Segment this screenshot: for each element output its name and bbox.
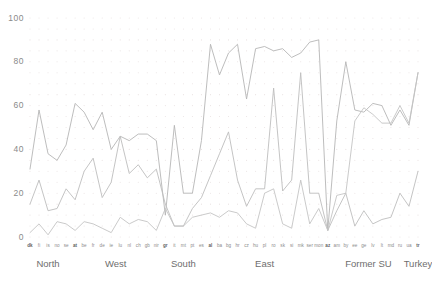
series-line-3	[30, 73, 418, 235]
series-line-1	[30, 40, 418, 231]
x-axis-tick-label: lu	[118, 243, 122, 249]
group-label-west: West	[105, 258, 126, 269]
x-axis-tick-label: be	[82, 243, 87, 249]
x-axis-tick-label: ge	[361, 243, 366, 249]
x-axis-tick-label: es	[199, 243, 204, 249]
x-axis-tick-label: bg	[226, 243, 231, 249]
y-axis-tick-label: 100	[2, 14, 24, 23]
series-line-2	[30, 73, 418, 231]
y-axis-tick-label: 60	[2, 101, 24, 110]
x-axis-tick-label: ro	[272, 243, 276, 249]
group-label-north: North	[36, 258, 59, 269]
group-label-former-su: Former SU	[345, 258, 391, 269]
x-axis-tick-label: se	[64, 243, 69, 249]
x-axis-tick-label: ch	[136, 243, 141, 249]
x-axis-tick-label: am	[334, 243, 340, 249]
x-axis-tick-label: pl	[263, 243, 267, 249]
x-axis-tick-label: mon	[314, 243, 323, 249]
y-axis-tick-label: 80	[2, 57, 24, 66]
x-axis-tick-label: sk	[280, 243, 285, 249]
x-axis-tick-label: cz	[244, 243, 249, 249]
x-axis-tick-label: ru	[398, 243, 402, 249]
x-axis-tick-label: it	[173, 243, 175, 249]
group-label-east: East	[255, 258, 274, 269]
x-axis-tick-label: nl	[127, 243, 131, 249]
x-axis-tick-label: az	[325, 243, 330, 249]
x-axis-tick-label: mk	[298, 243, 304, 249]
x-axis-tick-label: fi	[38, 243, 40, 249]
y-axis-tick-label: 0	[2, 233, 24, 242]
group-label-turkey: Turkey	[404, 258, 432, 269]
dot-grid	[29, 17, 418, 237]
x-axis-tick-label: is	[46, 243, 49, 249]
x-axis-tick-label: pt	[190, 243, 194, 249]
y-axis-tick-label: 40	[2, 145, 24, 154]
x-axis-tick-label: lv	[371, 243, 374, 249]
x-axis-tick-label: gr	[163, 243, 168, 249]
x-axis-tick-label: by	[343, 243, 348, 249]
x-axis-tick-label: dk	[27, 243, 32, 249]
x-axis-tick-label: hu	[253, 243, 258, 249]
x-axis-tick-label: ua	[406, 243, 411, 249]
x-axis-tick-label: fr	[92, 243, 95, 249]
x-axis-tick-label: md	[388, 243, 394, 249]
x-axis-tick-label: at	[73, 243, 77, 249]
x-axis-tick-label: ee	[352, 243, 357, 249]
x-axis-tick-label: de	[100, 243, 105, 249]
x-axis-tick-label: lt	[381, 243, 383, 249]
x-axis-tick-label: hr	[235, 243, 239, 249]
x-axis-tick-label: mt	[181, 243, 186, 249]
x-axis-tick-label: ba	[217, 243, 222, 249]
x-axis-tick-label: al	[209, 243, 213, 249]
x-axis-tick-label: ser	[307, 243, 313, 249]
x-axis-tick-label: nir	[154, 243, 159, 249]
group-label-south: South	[171, 258, 196, 269]
y-axis-tick-label: 20	[2, 189, 24, 198]
x-axis-tick-label: no	[55, 243, 60, 249]
x-axis-tick-label: gb	[145, 243, 150, 249]
x-axis-tick-label: ie	[109, 243, 113, 249]
x-axis-tick-label: si	[290, 243, 293, 249]
x-axis-tick-label: tr	[416, 243, 419, 249]
